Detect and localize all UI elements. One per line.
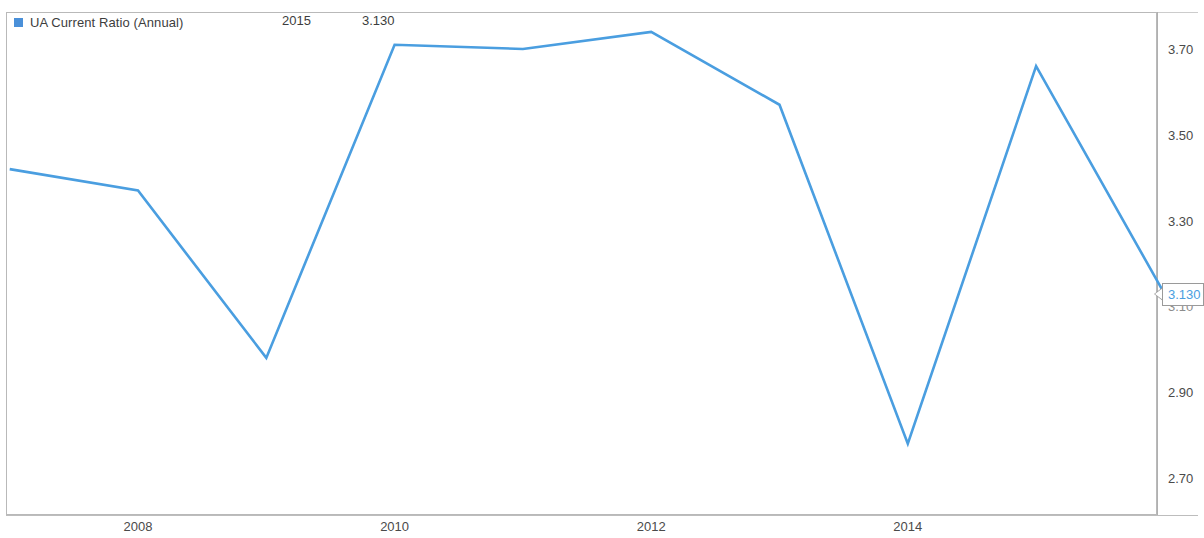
legend-color-swatch-icon: [14, 18, 23, 27]
last-value-callout-text: 3.130: [1168, 287, 1201, 302]
legend-series-label: UA Current Ratio (Annual): [30, 15, 184, 30]
legend-year-value: 2015: [282, 13, 311, 28]
x-axis-tick-label: 2014: [893, 519, 922, 534]
frame-top-extension: [1157, 12, 1198, 13]
plot-area: [6, 12, 1157, 515]
y-axis-tick-label: 3.50: [1168, 127, 1193, 142]
x-axis-tick-label: 2008: [124, 519, 153, 534]
last-value-callout: 3.130: [1162, 283, 1204, 306]
y-axis-tick-label: 2.70: [1168, 471, 1193, 486]
legend-data-value: 3.130: [362, 13, 395, 28]
chart-screenshot: UA Current Ratio (Annual) 2015 3.130 3.7…: [0, 0, 1204, 538]
chart-legend[interactable]: UA Current Ratio (Annual): [14, 13, 184, 31]
y-axis-tick-label: 3.30: [1168, 213, 1193, 228]
x-axis-tick-label: 2010: [380, 519, 409, 534]
x-axis-tick-label: 2012: [637, 519, 666, 534]
y-axis-line: [1157, 12, 1158, 515]
x-axis-line: [6, 515, 1198, 516]
y-axis-tick-label: 2.90: [1168, 385, 1193, 400]
y-axis-tick-label: 3.70: [1168, 42, 1193, 57]
